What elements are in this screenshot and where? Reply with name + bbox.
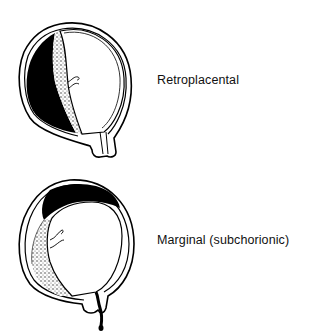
label-marginal-subchorionic: Marginal (subchorionic) [157, 233, 289, 247]
blood-drop [99, 325, 104, 331]
marginal-subchorionic-uterus-illustration [0, 168, 160, 336]
label-retroplacental: Retroplacental [157, 73, 239, 87]
retroplacental-uterus-illustration [0, 0, 160, 168]
